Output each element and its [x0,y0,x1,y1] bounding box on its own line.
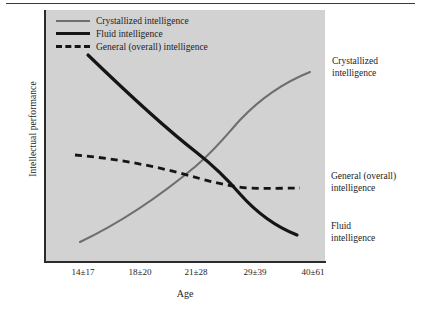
annotation-line-1: General (overall) [331,171,421,183]
crystallized-intelligence-curve [80,72,310,242]
legend-line-icon [56,28,90,40]
x-tick-label: 18±20 [110,267,170,277]
x-axis-label: Age [44,288,326,299]
annotation-fluid-intelligence: Fluid intelligence [331,221,421,244]
figure-container: Crystallized intelligence Fluid intellig… [0,0,421,313]
annotation-line-1: Fluid [331,221,421,233]
chart-legend: Crystallized intelligence Fluid intellig… [56,14,256,53]
legend-item-fluid: Fluid intelligence [56,27,256,40]
annotation-crystallized-intelligence: Crystallized intelligence [332,56,421,79]
x-axis-tick-labels: 14±17 18±20 21±28 29±39 40±61 [44,267,326,281]
legend-dashed-line-icon [56,41,90,53]
legend-item-label: General (overall) intelligence [96,42,208,52]
legend-item-general: General (overall) intelligence [56,40,256,53]
x-tick-label: 14±17 [53,267,113,277]
legend-item-label: Crystallized intelligence [96,16,189,26]
legend-line-icon [56,15,90,27]
annotation-line-1: Crystallized [332,56,421,68]
fluid-intelligence-curve [88,55,297,235]
x-tick-label: 40±61 [283,267,343,277]
annotation-general-intelligence: General (overall) intelligence [331,171,421,194]
annotation-line-2: intelligence [332,68,421,80]
annotation-line-2: intelligence [331,183,421,195]
legend-item-crystallized: Crystallized intelligence [56,14,256,27]
x-tick-label: 29±39 [225,267,285,277]
annotation-line-2: intelligence [331,233,421,245]
x-tick-label: 21±28 [166,267,226,277]
y-axis-label: Intellectual performance [28,34,38,224]
legend-item-label: Fluid intelligence [96,29,163,39]
